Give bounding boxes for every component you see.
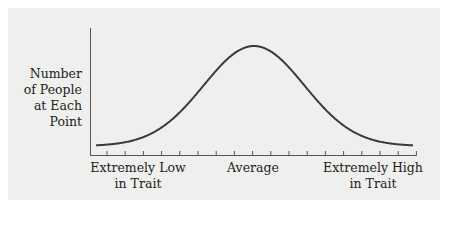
y-axis-label-line1: Number bbox=[0, 66, 82, 82]
x-label-extremely-low: Extremely Low in Trait bbox=[88, 160, 188, 192]
y-axis-label-line2: of People bbox=[0, 82, 82, 98]
y-axis-label: Number of People at Each Point bbox=[0, 66, 82, 130]
normal-distribution-curve bbox=[96, 46, 413, 145]
x-axis-ticks bbox=[107, 151, 416, 156]
x-label-extremely-high: Extremely High in Trait bbox=[318, 160, 428, 192]
y-axis-label-line3: at Each Point bbox=[0, 98, 82, 130]
x-label-average: Average bbox=[213, 160, 293, 176]
